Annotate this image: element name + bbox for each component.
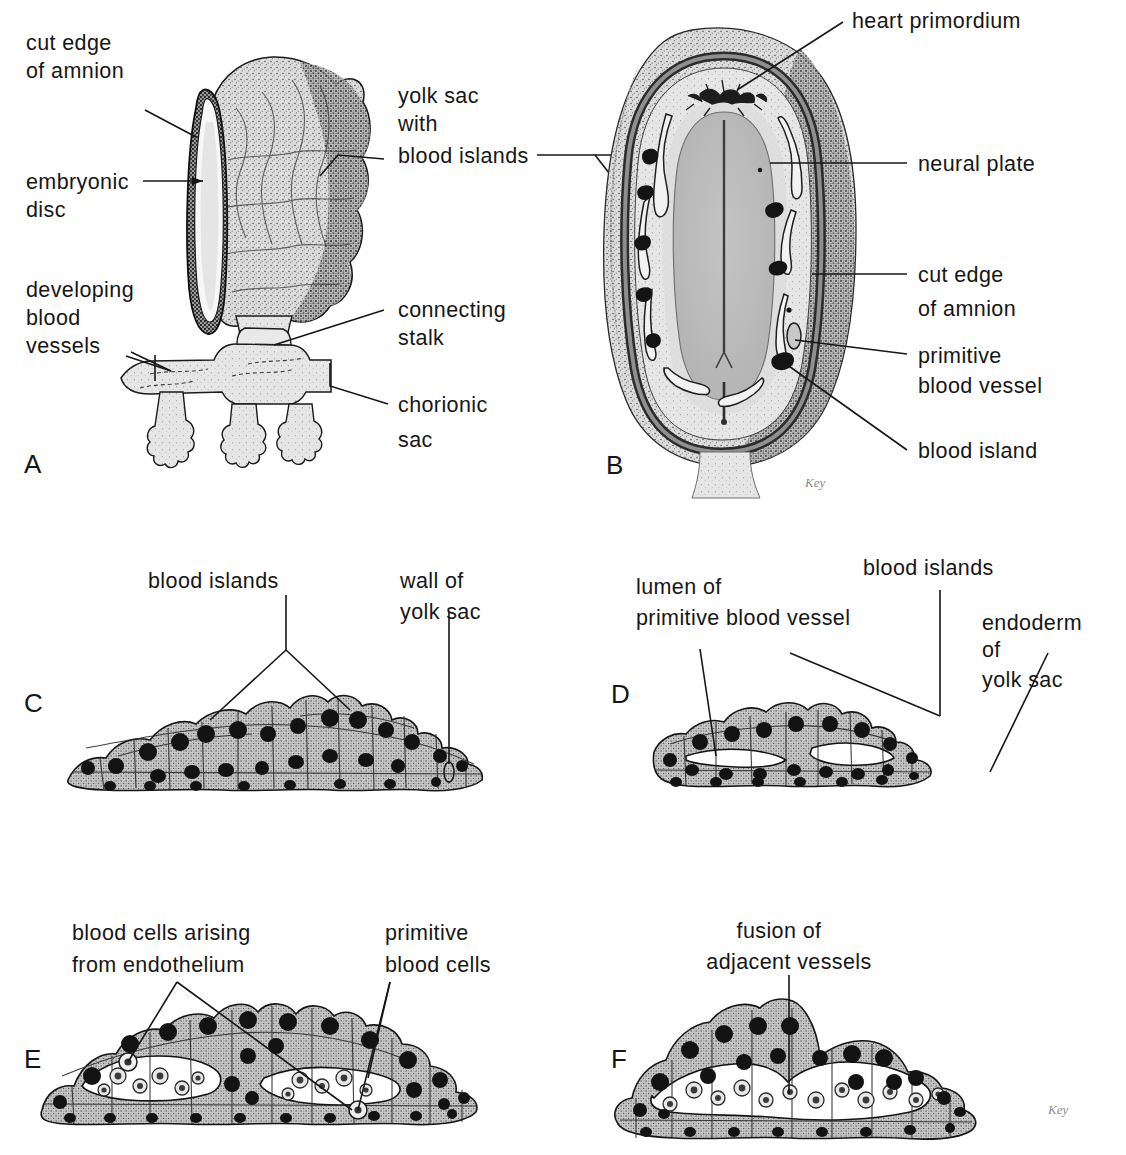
label-cut-edge-of-amnion-b-line2: of amnion (918, 297, 1016, 321)
label-primitive-blood-cells-line1: primitive (385, 921, 469, 945)
label-cut-edge-of-amnion-b-line1: cut edge (918, 263, 1004, 287)
label-cut-edge-of-amnion-line2: of amnion (26, 59, 124, 83)
label-connecting-stalk-line1: connecting (398, 298, 506, 322)
panel-letter-e: E (24, 1044, 42, 1074)
panel-letter-a: A (24, 449, 42, 479)
embryology-figure: cut edge of amnion embryonic disc develo… (0, 0, 1126, 1155)
label-chorionic-sac-line1: chorionic (398, 393, 488, 417)
embryonic-disc-illustration (187, 90, 227, 335)
label-yolk-sac-line3-blood-islands: blood islands (398, 144, 529, 168)
label-yolk-sac-line2: with (397, 112, 438, 136)
chorionic-villi (147, 392, 322, 468)
label-developing-blood-vessels-line3: vessels (26, 334, 101, 358)
label-yolk-sac-line1: yolk sac (398, 84, 479, 108)
label-neural-plate: neural plate (918, 152, 1035, 176)
panel-letter-f: F (611, 1044, 627, 1074)
label-blood-cells-arising-line2: from endothelium (72, 953, 245, 977)
label-heart-primordium: heart primordium (852, 9, 1021, 33)
label-endoderm-of-yolk-sac-line1: endoderm (982, 611, 1082, 635)
label-blood-islands-d: blood islands (863, 556, 994, 580)
artist-signature-b: Key (804, 475, 825, 490)
label-developing-blood-vessels-line2: blood (26, 306, 81, 330)
label-developing-blood-vessels-line1: developing (26, 278, 134, 302)
label-endoderm-of-yolk-sac-line3: yolk sac (982, 668, 1063, 692)
label-connecting-stalk-line2: stalk (398, 326, 444, 350)
label-blood-cells-arising-line1: blood cells arising (72, 921, 251, 945)
label-chorionic-sac-line2: sac (398, 428, 433, 452)
figure-canvas: cut edge of amnion embryonic disc develo… (0, 0, 1126, 1155)
label-blood-island: blood island (918, 439, 1038, 463)
panel-letter-d: D (611, 679, 630, 709)
label-wall-of-yolk-sac-line1: wall of (399, 569, 464, 593)
label-embryonic-disc-line2: disc (26, 198, 66, 222)
label-embryonic-disc-line1: embryonic (26, 170, 129, 194)
primitive-pit-b (721, 419, 727, 425)
label-fusion-of-adjacent-vessels-line2: adjacent vessels (706, 950, 871, 974)
label-endoderm-of-yolk-sac-line2: of (982, 638, 1001, 662)
label-fusion-of-adjacent-vessels-line1: fusion of (737, 919, 822, 943)
label-primitive-blood-cells-line2: blood cells (385, 953, 491, 977)
label-lumen-of-primitive-blood-vessel-line1: lumen of (636, 575, 722, 599)
panel-letter-b: B (606, 450, 624, 480)
label-cut-edge-of-amnion-line1: cut edge (26, 31, 112, 55)
label-lumen-of-primitive-blood-vessel-line2: primitive blood vessel (636, 606, 850, 630)
label-primitive-blood-vessel-line2: blood vessel (918, 374, 1042, 398)
label-wall-of-yolk-sac-line2: yolk sac (400, 600, 481, 624)
label-blood-islands-c: blood islands (148, 569, 279, 593)
panel-letter-c: C (24, 688, 43, 718)
connecting-stalk-stub-b (692, 452, 760, 498)
label-primitive-blood-vessel-line1: primitive (918, 344, 1002, 368)
artist-signature-f: Key (1047, 1102, 1068, 1117)
